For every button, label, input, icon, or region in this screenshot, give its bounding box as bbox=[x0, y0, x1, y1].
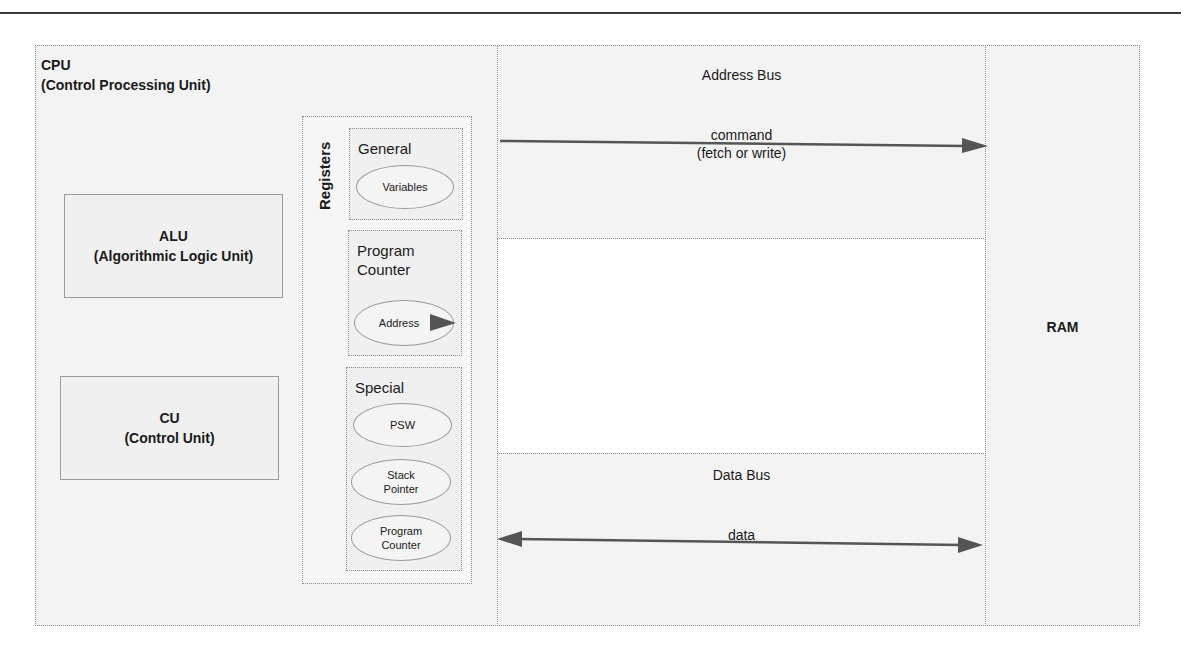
address-pointer-arrow bbox=[430, 314, 456, 331]
command-arrow bbox=[500, 138, 988, 153]
data-arrow bbox=[497, 531, 983, 553]
arrows-layer bbox=[0, 0, 1181, 668]
